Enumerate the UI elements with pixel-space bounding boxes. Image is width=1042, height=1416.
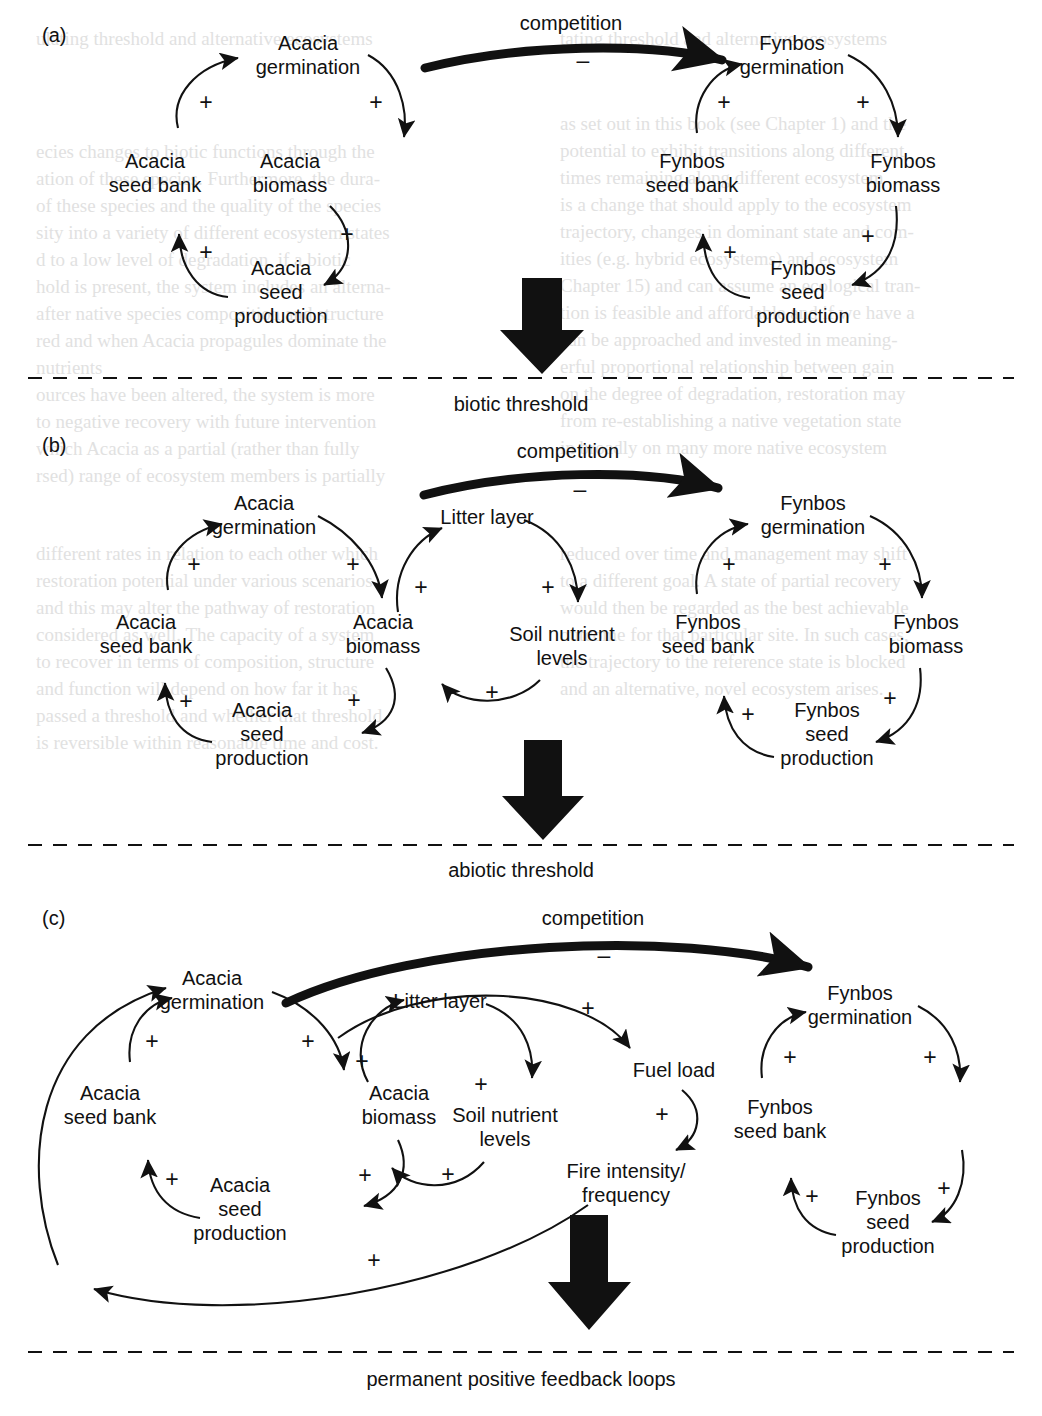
panel-a-sign-1: + <box>199 89 212 115</box>
svg-text:restoration potential under va: restoration potential under various scen… <box>36 570 373 591</box>
svg-text:to negative recovery with futu: to negative recovery with future interve… <box>36 411 377 432</box>
node-line-3: production <box>841 1235 934 1257</box>
node-line-2: biomass <box>889 635 963 657</box>
panel-c-sign-8: + <box>581 995 594 1021</box>
panel-b-node-litter-layer: Litter layer <box>440 506 534 528</box>
panel-a-sign-6: + <box>856 89 869 115</box>
node-line-1: Acacia <box>353 611 414 633</box>
panel-b-sign-2: + <box>346 551 359 577</box>
panel-b-competition-label: competition <box>517 440 619 462</box>
svg-text:on the degree of degradation,: on the degree of degradation, restoratio… <box>560 383 906 404</box>
panel-b-sign-3: + <box>347 687 360 713</box>
panel-b-sign-11: + <box>741 701 754 727</box>
panel-a-sign-4: + <box>199 239 212 265</box>
svg-text:ation of these species. Furthe: ation of these species. Furthermore, the… <box>36 168 380 189</box>
node-line-1: Fynbos <box>659 150 725 172</box>
node-line-2: seed <box>259 281 302 303</box>
panel-b-sign-6: + <box>541 574 554 600</box>
panel-a-sign-3: + <box>340 221 353 247</box>
panel-c-node-fuel-load: Fuel load <box>633 1059 715 1081</box>
panel-b-competition-sign: – <box>574 476 587 502</box>
node-line-1: Acacia <box>182 967 243 989</box>
panel-c-competition-label: competition <box>542 907 644 929</box>
node-line-2: biomass <box>253 174 327 196</box>
figure-page: ulating threshold and alternative ecosys… <box>0 0 1042 1416</box>
node-line-2: seed <box>218 1198 261 1220</box>
node-line-1: Fynbos <box>747 1096 813 1118</box>
panel-c-sign-4: + <box>165 1166 178 1192</box>
svg-text:considered as well. The capaci: considered as well. The capacity of a sy… <box>36 624 375 645</box>
panel-c-sign-13: + <box>937 1175 950 1201</box>
panel-a-sign-7: + <box>861 223 874 249</box>
node-line-1: Acacia <box>210 1174 271 1196</box>
node-line-1: Acacia <box>234 492 295 514</box>
node-line-1: Fynbos <box>855 1187 921 1209</box>
node-line-1: Acacia <box>125 150 186 172</box>
panel-a-competition-sign: – <box>577 47 590 73</box>
panel-c-competition-sign: – <box>598 942 611 968</box>
panel-c-sign-12: + <box>923 1044 936 1070</box>
node-line-1: Fynbos <box>870 150 936 172</box>
node-line-1: Acacia <box>260 150 321 172</box>
node-line-3: production <box>193 1222 286 1244</box>
panel-c-sign-3: + <box>358 1162 371 1188</box>
node-line-2: seed <box>805 723 848 745</box>
node-line-2: seed <box>866 1211 909 1233</box>
panel-a-competition-label: competition <box>520 12 622 34</box>
node-line-2: seed <box>781 281 824 303</box>
panel-a-sign-2: + <box>369 89 382 115</box>
panel-c-sign-1: + <box>145 1028 158 1054</box>
node-line-1: Acacia <box>278 32 339 54</box>
node-line-1: Fynbos <box>675 611 741 633</box>
panel-b-threshold-label: abiotic threshold <box>448 859 594 881</box>
panel-a-sign-8: + <box>723 239 736 265</box>
svg-text:is reversible within reasonabl: is reversible within reasonable time and… <box>36 732 378 753</box>
node-line-1: Acacia <box>232 699 293 721</box>
panel-a-id: (a) <box>42 24 66 46</box>
panel-b-sign-4: + <box>179 688 192 714</box>
panel-b-sign-5: + <box>414 574 427 600</box>
node-line-1: Fynbos <box>794 699 860 721</box>
causal-loop-diagram: ulating threshold and alternative ecosys… <box>0 0 1042 1416</box>
panel-c-sign-7: + <box>441 1161 454 1187</box>
node-line-2: germination <box>160 991 265 1013</box>
node-line-1: Fynbos <box>759 32 825 54</box>
svg-text:nutrients: nutrients <box>36 357 103 378</box>
panel-b-sign-1: + <box>187 551 200 577</box>
node-line-1: Fynbos <box>827 982 893 1004</box>
panel-c-sign-5: + <box>355 1048 368 1074</box>
node-line-2: seed bank <box>662 635 755 657</box>
node-line-2: germination <box>808 1006 913 1028</box>
svg-text:which Acacia as a partial (rat: which Acacia as a partial (rather than f… <box>36 438 360 460</box>
node-line-2: seed bank <box>734 1120 827 1142</box>
node-line-2: seed bank <box>100 635 193 657</box>
svg-text:and this may alter the pathway: and this may alter the pathway of restor… <box>36 597 376 618</box>
panel-a-threshold-label: biotic threshold <box>454 393 589 415</box>
node-line-1: Soil nutrient <box>452 1104 558 1126</box>
svg-text:sity into a variety of differe: sity into a variety of different ecosyst… <box>36 222 390 243</box>
node-line-3: production <box>780 747 873 769</box>
node-line-1: Litter layer <box>440 506 534 528</box>
node-line-1: Acacia <box>80 1082 141 1104</box>
svg-text:can be approached and invested: can be approached and invested in meanin… <box>560 329 898 350</box>
node-line-3: production <box>215 747 308 769</box>
node-line-1: Soil nutrient <box>509 623 615 645</box>
panel-c-sign-10: + <box>367 1247 380 1273</box>
svg-text:rsed) range of ecosystem membe: rsed) range of ecosystem members is part… <box>36 465 386 487</box>
panel-c-sign-2: + <box>301 1028 314 1054</box>
svg-text:red and when Acacia propagules: red and when Acacia propagules dominate … <box>36 330 386 351</box>
panel-c-sign-14: + <box>805 1183 818 1209</box>
node-line-2: levels <box>536 647 587 669</box>
svg-text:is a change that should apply: is a change that should apply to the eco… <box>560 194 912 215</box>
node-line-2: germination <box>740 56 845 78</box>
node-line-1: Fynbos <box>780 492 846 514</box>
panel-c-sign-6: + <box>474 1071 487 1097</box>
node-line-2: seed <box>240 723 283 745</box>
svg-text:ecies changes to biotic functi: ecies changes to biotic functions throug… <box>36 141 375 162</box>
node-line-2: germination <box>212 516 317 538</box>
node-line-1: Fynbos <box>893 611 959 633</box>
svg-text:ources have been altered, the: ources have been altered, the system is … <box>36 384 375 405</box>
panel-c-threshold-label: permanent positive feedback loops <box>366 1368 675 1390</box>
svg-text:after native species compositi: after native species composition and str… <box>36 303 384 324</box>
panel-c-node-litter-layer: Litter layer <box>393 990 487 1012</box>
